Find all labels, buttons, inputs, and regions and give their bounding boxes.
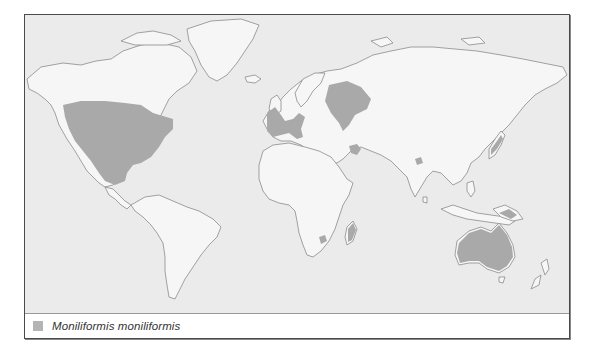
world-map — [25, 15, 569, 314]
map-figure-frame: Moniliformis moniliformis — [24, 14, 570, 339]
legend-swatch — [33, 321, 43, 331]
world-map-svg — [25, 15, 569, 313]
landmass-central-america — [105, 187, 131, 209]
landmass-tasmania — [499, 277, 505, 283]
landmass-sri-lanka — [423, 197, 427, 203]
landmass-south-america — [131, 195, 221, 299]
landmass-new-zealand — [531, 259, 549, 289]
landmass-philippines — [467, 181, 475, 197]
landmass-arctic-islands — [121, 31, 485, 47]
landmass-iceland — [245, 75, 261, 83]
landmass-greenland — [187, 19, 259, 81]
legend-label: Moniliformis moniliformis — [52, 320, 180, 332]
map-legend: Moniliformis moniliformis — [25, 314, 569, 338]
